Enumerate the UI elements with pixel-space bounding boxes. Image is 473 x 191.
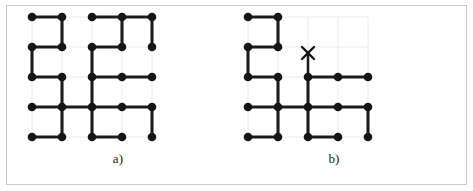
graph-node[interactable]: [118, 133, 127, 142]
graph-node[interactable]: [88, 103, 97, 112]
graph-node[interactable]: [148, 133, 157, 142]
graph-node[interactable]: [28, 133, 37, 142]
graph-node[interactable]: [88, 73, 97, 82]
graph-node[interactable]: [58, 13, 67, 22]
graph-node[interactable]: [364, 133, 373, 142]
panel-a: a): [12, 5, 224, 177]
graph-node[interactable]: [334, 73, 343, 82]
graph-node[interactable]: [274, 103, 283, 112]
panel-a-svg: [12, 5, 224, 155]
panel-a-graph: [12, 5, 224, 155]
graph-node[interactable]: [274, 73, 283, 82]
graph-node[interactable]: [364, 103, 373, 112]
graph-node[interactable]: [304, 133, 313, 142]
graph-node[interactable]: [58, 43, 67, 52]
graph-node[interactable]: [88, 43, 97, 52]
graph-node[interactable]: [244, 13, 253, 22]
graph-node[interactable]: [244, 103, 253, 112]
panel-b-graph: [228, 5, 440, 155]
graph-node[interactable]: [148, 13, 157, 22]
graph-node[interactable]: [274, 133, 283, 142]
graph-node[interactable]: [244, 73, 253, 82]
graph-node[interactable]: [304, 103, 313, 112]
graph-node[interactable]: [58, 133, 67, 142]
panel-b-svg: [228, 5, 440, 155]
graph-node[interactable]: [304, 73, 313, 82]
panel-b-label: b): [228, 151, 440, 167]
graph-node[interactable]: [148, 43, 157, 52]
graph-node[interactable]: [28, 13, 37, 22]
graph-node[interactable]: [274, 43, 283, 52]
graph-node[interactable]: [58, 103, 67, 112]
graph-node[interactable]: [58, 73, 67, 82]
graph-node[interactable]: [118, 103, 127, 112]
figure-root: a) b): [0, 0, 473, 191]
graph-node[interactable]: [148, 103, 157, 112]
panel-a-label: a): [12, 151, 224, 167]
graph-node[interactable]: [244, 133, 253, 142]
graph-node[interactable]: [118, 73, 127, 82]
graph-node[interactable]: [244, 43, 253, 52]
graph-node[interactable]: [28, 73, 37, 82]
panel-b: b): [228, 5, 440, 177]
graph-node[interactable]: [88, 133, 97, 142]
graph-node[interactable]: [274, 13, 283, 22]
graph-node[interactable]: [334, 103, 343, 112]
graph-node[interactable]: [148, 73, 157, 82]
graph-node[interactable]: [118, 13, 127, 22]
graph-node[interactable]: [364, 73, 373, 82]
graph-node[interactable]: [28, 43, 37, 52]
graph-node[interactable]: [118, 43, 127, 52]
graph-node[interactable]: [28, 103, 37, 112]
graph-node[interactable]: [88, 13, 97, 22]
graph-node[interactable]: [334, 133, 343, 142]
